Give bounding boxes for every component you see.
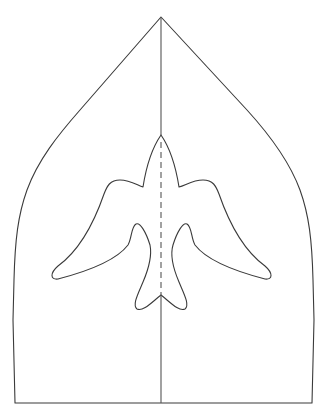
card-outline (13, 17, 314, 403)
template-diagram (0, 0, 324, 417)
